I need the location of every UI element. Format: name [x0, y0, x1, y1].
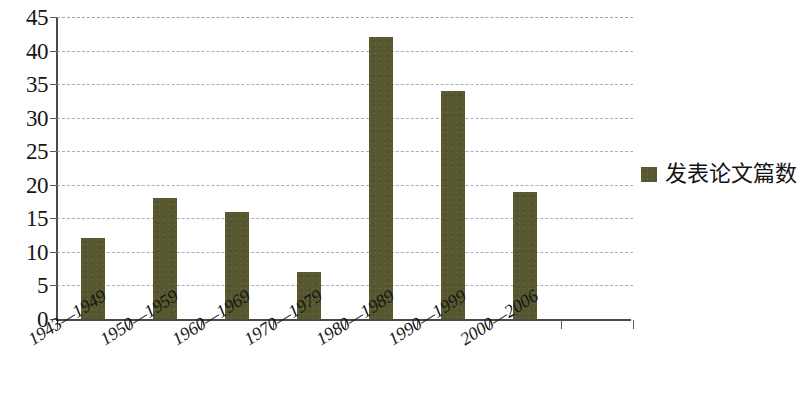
y-axis-tick-label: 25 — [6, 140, 48, 163]
y-axis-tick-mark — [50, 17, 57, 18]
y-axis-labels: 454035302520151050 — [0, 0, 48, 330]
gridline — [57, 84, 633, 85]
gridline — [57, 118, 633, 119]
legend-label: 发表论文篇数 — [665, 163, 797, 185]
bar — [441, 91, 465, 319]
x-axis-tick-mark — [633, 320, 634, 329]
gridline — [57, 151, 633, 152]
y-axis-tick-label: 5 — [6, 274, 48, 297]
y-axis-tick-mark — [50, 252, 57, 253]
gridline — [57, 185, 633, 186]
y-axis-tick-mark — [50, 285, 57, 286]
gridline — [57, 285, 633, 286]
y-axis-tick-label: 45 — [6, 6, 48, 29]
legend-swatch-icon — [641, 167, 657, 182]
gridline — [57, 252, 633, 253]
legend: 发表论文篇数 — [641, 163, 797, 185]
y-axis-tick-mark — [50, 118, 57, 119]
bar-chart: 454035302520151050 发表论文篇数 1943—19491950—… — [0, 0, 802, 399]
y-axis-tick-mark — [50, 84, 57, 85]
y-axis-tick-label: 30 — [6, 107, 48, 130]
y-axis-tick-mark — [50, 51, 57, 52]
gridline — [57, 17, 633, 18]
plot-area — [57, 17, 633, 319]
y-axis-tick-mark — [50, 185, 57, 186]
y-axis-tick-label: 35 — [6, 73, 48, 96]
y-axis-tick-label: 20 — [6, 174, 48, 197]
gridline — [57, 51, 633, 52]
y-axis-tick-label: 15 — [6, 207, 48, 230]
y-axis-tick-mark — [50, 151, 57, 152]
bar — [369, 37, 393, 319]
y-axis-tick-label: 40 — [6, 40, 48, 63]
gridline — [57, 218, 633, 219]
y-axis-tick-mark — [50, 218, 57, 219]
x-axis-tick-mark — [561, 320, 562, 329]
y-axis-tick-label: 10 — [6, 241, 48, 264]
